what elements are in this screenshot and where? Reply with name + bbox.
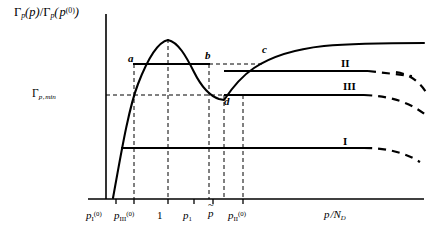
branch-label-I: I bbox=[343, 136, 347, 147]
branch-label-II: II bbox=[341, 58, 350, 69]
branch-line-II-dashed bbox=[368, 71, 412, 76]
xtick-label-p-III-0: pIII(0) bbox=[114, 209, 134, 222]
xtick-label-p-I-0: pI(0) bbox=[86, 209, 102, 222]
plot-canvas bbox=[0, 0, 430, 243]
point-label-b: b bbox=[205, 50, 211, 61]
xtick-label-p-1: p1 bbox=[183, 209, 192, 222]
y-axis-label: Γp(p)/Γp( p(0)) bbox=[14, 6, 79, 20]
figure-container: Γp(p)/Γp( p(0)) Γp , min a b c d II III … bbox=[0, 0, 430, 243]
branch-III-dashed-tail bbox=[364, 95, 427, 116]
xtick-label-p-tilde: p bbox=[208, 207, 214, 219]
point-label-d: d bbox=[224, 96, 230, 107]
branch-label-III: III bbox=[343, 81, 356, 92]
x-axis-label: p /ND bbox=[324, 209, 346, 222]
point-label-c: c bbox=[262, 44, 267, 55]
gamma-p-min-label: Γp , min bbox=[32, 88, 56, 101]
xtick-label-one: 1 bbox=[157, 209, 163, 221]
branch-I-dashed-tail bbox=[364, 148, 420, 162]
point-label-a: a bbox=[128, 53, 134, 64]
xtick-label-p-II-0: pII(0) bbox=[228, 209, 246, 222]
